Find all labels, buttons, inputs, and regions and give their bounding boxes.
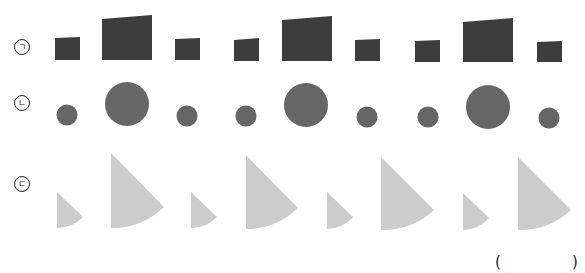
trapezoid-small [234,38,259,61]
figure-canvas [0,0,585,273]
sector-small [463,193,489,230]
dodecagon-small [177,106,198,127]
sector-small [57,192,83,228]
trapezoid-small [355,39,380,61]
dodecagon-small [236,106,257,127]
sector-large [111,153,164,228]
dodecagon-row [57,82,560,129]
answer-blank-open: ( [495,253,501,271]
sector-small [327,192,353,229]
trapezoid-row [55,15,562,62]
sector-large [381,157,434,230]
trapezoid-large [282,16,332,61]
trapezoid-small [415,40,440,62]
sector-small [191,192,217,228]
sector-row [57,153,571,230]
dodecagon-large [466,85,510,129]
sector-large [246,155,298,229]
answer-blank-close: ) [572,253,578,271]
sector-large [518,157,571,230]
dodecagon-small [418,107,439,128]
dodecagon-large [105,82,149,126]
trapezoid-small [55,37,80,60]
dodecagon-small [539,108,560,129]
trapezoid-large [463,18,513,62]
trapezoid-large [102,15,152,60]
dodecagon-large [284,83,328,127]
trapezoid-small [175,38,200,60]
dodecagon-small [357,107,378,128]
trapezoid-small [537,41,562,62]
dodecagon-small [57,105,78,126]
